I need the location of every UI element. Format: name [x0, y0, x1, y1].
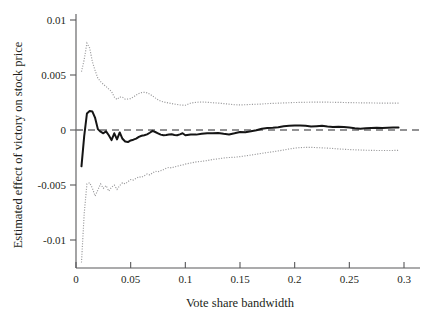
y-tick-label: 0: [61, 124, 67, 136]
x-tick-label: 0.3: [397, 273, 411, 285]
y-tick-label: 0.01: [47, 14, 66, 26]
x-tick-label: 0.05: [121, 273, 141, 285]
chart-figure: Estimated effect of victory on stock pri…: [0, 0, 425, 318]
x-tick-label: 0: [73, 273, 79, 285]
chart-background: [0, 0, 425, 318]
y-tick-label: -0.01: [43, 234, 66, 246]
x-axis-title: Vote share bandwidth: [186, 296, 295, 310]
x-tick-label: 0.2: [288, 273, 302, 285]
y-axis-title: Estimated effect of victory on stock pri…: [11, 41, 25, 248]
x-tick-label: 0.25: [340, 273, 360, 285]
chart-canvas: Estimated effect of victory on stock pri…: [0, 0, 425, 318]
y-tick-label: -0.005: [38, 179, 67, 191]
x-tick-label: 0.15: [230, 273, 250, 285]
x-tick-label: 0.1: [178, 273, 192, 285]
y-tick-label: 0.005: [41, 69, 66, 81]
